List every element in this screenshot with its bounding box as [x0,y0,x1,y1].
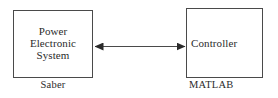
block-controller-label: Controller [187,37,237,49]
block-controller[interactable]: Controller [186,8,263,78]
block-diagram-canvas: Power Electronic System Saber Controller… [0,0,278,98]
block-power-electronic-system[interactable]: Power Electronic System [13,10,93,78]
block-controller-caption: MATLAB [186,79,263,90]
bidirectional-arrow-icon [92,38,188,56]
block-power-electronic-system-label: Power Electronic System [30,25,76,64]
block-power-electronic-system-caption: Saber [13,79,93,90]
